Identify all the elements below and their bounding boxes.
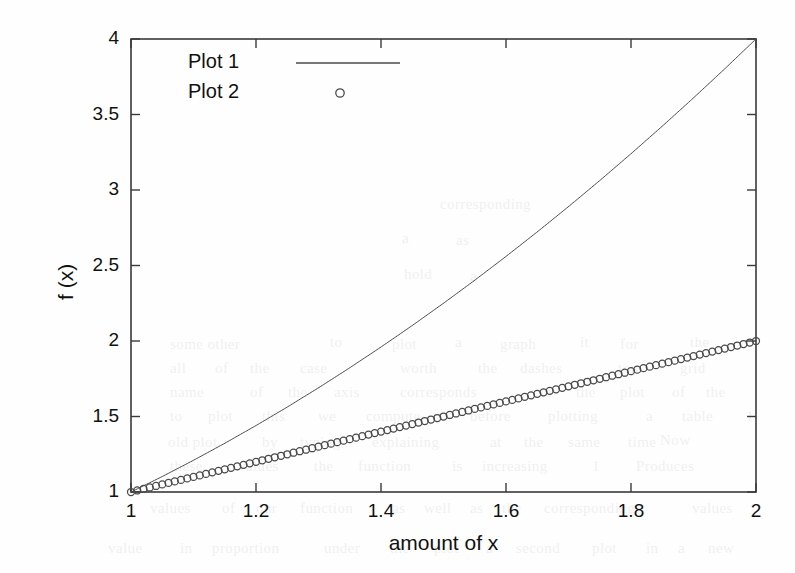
y-axis-tick-label-1: 1.5 (93, 405, 119, 427)
series-2 (128, 338, 760, 496)
y-axis-tick-label-0: 1 (108, 480, 119, 502)
x-axis-tick-label-3: 1.6 (466, 500, 546, 522)
y-axis-tick-label-3: 2.5 (93, 254, 119, 276)
y-axis-tick-label-4: 3 (108, 178, 119, 200)
x-axis-tick-label-5: 2 (716, 500, 795, 522)
x-axis-tick-label-0: 1 (91, 500, 171, 522)
series-1 (131, 39, 756, 492)
series-line-plot-1 (131, 39, 756, 492)
y-axis-title: f (x) (54, 263, 78, 299)
legend (296, 63, 400, 97)
figure-canvas: correspondingaasholdasome othertoplotagr… (0, 0, 795, 573)
x-axis-tick-label-4: 1.8 (591, 500, 671, 522)
y-axis-tick-label-6: 4 (108, 27, 119, 49)
x-axis-title: amount of x (284, 531, 604, 555)
legend-label-plot-2: Plot 2 (188, 80, 239, 103)
legend-sample-circle-icon (336, 89, 344, 97)
x-axis-tick-label-1: 1.2 (216, 500, 296, 522)
plot-area (0, 0, 795, 573)
legend-label-plot-1: Plot 1 (188, 50, 239, 73)
y-axis-tick-label-2: 2 (108, 329, 119, 351)
plot-box-frame (131, 39, 756, 492)
y-axis-tick-label-5: 3.5 (93, 103, 119, 125)
x-axis-tick-label-2: 1.4 (341, 500, 421, 522)
